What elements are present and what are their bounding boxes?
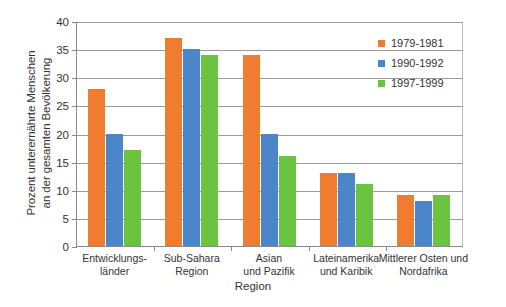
bar — [201, 55, 218, 246]
legend-item: 1990-1992 — [378, 53, 462, 73]
y-tick-label: 25 — [56, 100, 69, 112]
bar — [279, 156, 296, 246]
bar — [165, 38, 182, 246]
bar — [356, 184, 373, 246]
legend-label: 1990-1992 — [391, 57, 444, 69]
y-tick-mark — [72, 219, 77, 220]
y-tick-mark — [72, 50, 77, 51]
legend-label: 1997-1999 — [391, 77, 444, 89]
legend-item: 1979-1981 — [378, 33, 462, 53]
bar-group — [243, 21, 296, 246]
y-tick-label: 40 — [56, 16, 69, 28]
bar — [106, 134, 123, 247]
y-tick-mark — [72, 191, 77, 192]
bar — [124, 150, 141, 246]
y-tick-label: 10 — [56, 185, 69, 197]
bar — [243, 55, 260, 246]
bar — [183, 49, 200, 246]
y-tick-label: 5 — [63, 213, 69, 225]
x-tick-mark — [386, 246, 387, 251]
bar — [320, 173, 337, 246]
y-tick-label: 30 — [56, 72, 69, 84]
bar-chart-figure: Prozent unterernährte Menschen an der ge… — [0, 0, 506, 307]
y-tick-mark — [72, 135, 77, 136]
legend-item: 1997-1999 — [378, 73, 462, 93]
bar — [88, 89, 105, 247]
bar — [261, 134, 278, 247]
y-tick-mark — [72, 163, 77, 164]
y-tick-mark — [72, 247, 77, 248]
bar — [415, 201, 432, 246]
legend: 1979-19811990-19921997-1999 — [378, 33, 462, 93]
legend-swatch — [378, 80, 385, 87]
y-tick-label: 35 — [56, 44, 69, 56]
x-tick-mark — [154, 246, 155, 251]
bar-group — [320, 21, 373, 246]
x-axis-title: Region — [0, 280, 506, 292]
bar — [433, 195, 450, 246]
bar — [397, 195, 414, 246]
y-tick-mark — [72, 106, 77, 107]
y-axis-title: Prozent unterernährte Menschen an der ge… — [24, 17, 54, 249]
bar — [338, 173, 355, 246]
y-tick-label: 15 — [56, 157, 69, 169]
y-tick-mark — [72, 78, 77, 79]
legend-swatch — [378, 40, 385, 47]
x-tick-mark — [231, 246, 232, 251]
x-tick-mark — [309, 246, 310, 251]
y-tick-label: 20 — [56, 129, 69, 141]
x-category-label: Mittlerer Osten und Nordafrika — [375, 252, 472, 277]
bar-group — [165, 21, 218, 246]
legend-swatch — [378, 60, 385, 67]
legend-label: 1979-1981 — [391, 37, 444, 49]
y-tick-mark — [72, 22, 77, 23]
bar-group — [88, 21, 141, 246]
